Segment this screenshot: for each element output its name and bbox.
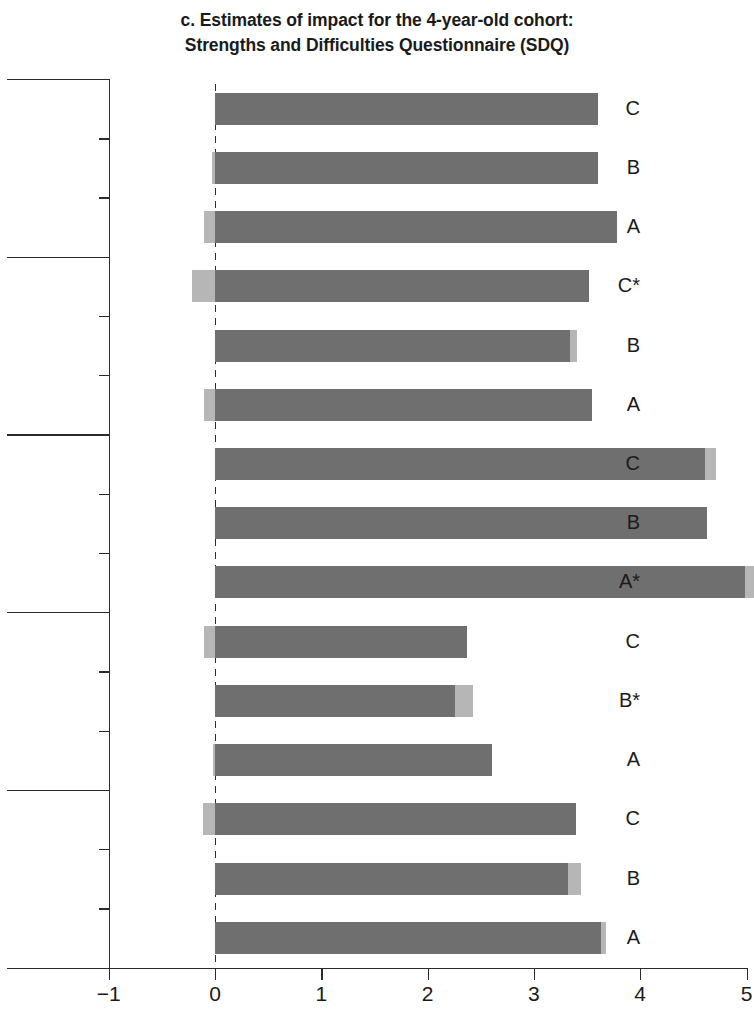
bar-estimate-dark bbox=[215, 93, 598, 125]
x-axis-label: 5 bbox=[717, 982, 754, 1006]
group-separator bbox=[7, 434, 110, 435]
bar-estimate-dark bbox=[215, 685, 455, 717]
y-axis-tick bbox=[99, 494, 110, 495]
group-separator bbox=[7, 968, 110, 969]
category-label: C bbox=[626, 452, 640, 474]
y-axis-tick bbox=[99, 671, 110, 672]
bar-estimate-dark bbox=[215, 152, 598, 184]
category-label: B bbox=[627, 334, 640, 356]
x-axis-tick bbox=[109, 968, 110, 980]
x-axis-label: −1 bbox=[79, 982, 139, 1006]
category-label: A bbox=[627, 393, 640, 415]
category-label: B* bbox=[619, 689, 640, 711]
y-axis-line bbox=[109, 79, 110, 969]
bar-estimate-dark bbox=[215, 270, 589, 302]
y-axis-tick bbox=[99, 849, 110, 850]
category-label: C bbox=[626, 807, 640, 829]
category-label: C bbox=[626, 630, 640, 652]
category-label: A bbox=[627, 215, 640, 237]
x-axis-label: 0 bbox=[185, 982, 245, 1006]
y-axis-tick bbox=[99, 375, 110, 376]
category-label: A* bbox=[619, 570, 640, 592]
y-axis-tick bbox=[99, 908, 110, 909]
category-label: C* bbox=[618, 274, 640, 296]
x-axis-label: 4 bbox=[610, 982, 670, 1006]
category-label: C bbox=[626, 97, 640, 119]
bar-estimate-dark bbox=[215, 744, 492, 776]
y-axis-tick bbox=[99, 731, 110, 732]
x-axis-label: 1 bbox=[291, 982, 351, 1006]
bar-estimate-dark bbox=[215, 803, 576, 835]
group-separator bbox=[7, 612, 110, 613]
y-axis-tick bbox=[99, 553, 110, 554]
x-axis-tick bbox=[640, 968, 641, 980]
bar-estimate-dark bbox=[215, 922, 601, 954]
plot-area: CBAC*BACBA*CB*ACBA −1012345 bbox=[0, 0, 754, 1012]
bar-estimate-dark bbox=[215, 389, 592, 421]
x-axis-label: 3 bbox=[504, 982, 564, 1006]
group-separator bbox=[7, 790, 110, 791]
category-label: B bbox=[627, 867, 640, 889]
x-axis-tick bbox=[747, 968, 748, 980]
category-label: A bbox=[627, 748, 640, 770]
bar-estimate-dark bbox=[215, 211, 617, 243]
bar-estimate-dark bbox=[215, 330, 570, 362]
y-axis-tick bbox=[99, 197, 110, 198]
x-axis-tick bbox=[321, 968, 322, 980]
bar-estimate-dark bbox=[215, 566, 745, 598]
y-axis-tick bbox=[99, 138, 110, 139]
x-axis-label: 2 bbox=[398, 982, 458, 1006]
category-label: B bbox=[627, 156, 640, 178]
category-label: A bbox=[627, 926, 640, 948]
bar-estimate-dark bbox=[215, 626, 467, 658]
group-separator bbox=[7, 257, 110, 258]
category-label: B bbox=[627, 511, 640, 533]
bar-estimate-dark bbox=[215, 863, 568, 895]
y-axis-tick bbox=[99, 316, 110, 317]
sdq-impact-chart: c. Estimates of impact for the 4-year-ol… bbox=[0, 0, 754, 1012]
x-axis-tick bbox=[534, 968, 535, 980]
x-axis-tick bbox=[215, 968, 216, 980]
x-axis-tick bbox=[428, 968, 429, 980]
group-separator bbox=[7, 79, 110, 80]
